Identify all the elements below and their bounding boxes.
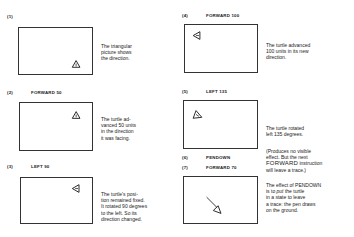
step-number: (1) — [7, 14, 13, 19]
step-number: (4) — [182, 13, 188, 18]
step-number: (7) — [182, 165, 188, 170]
step-2-label: (2) FORWARD 50 — [7, 90, 13, 95]
turtle-trace-drawing — [184, 177, 257, 223]
step-7-screen — [183, 176, 258, 224]
step-4-label: (4) FORWARD 100 — [182, 13, 188, 18]
step-3-label: (3) LEFT 90 — [7, 164, 13, 169]
step-3-description: The turtle's posi- tion remained fixed. … — [101, 191, 147, 222]
emphasis-put: put — [277, 188, 284, 194]
turtle-icon — [213, 206, 221, 214]
turtle-icon — [20, 103, 92, 150]
step-5-screen — [183, 100, 258, 149]
step-2-screen — [19, 102, 93, 151]
step-number: (2) — [7, 90, 13, 95]
desc-line: on the ground. — [266, 207, 321, 213]
step-number: (6) — [182, 155, 188, 160]
step-1-label: (1) — [7, 14, 13, 19]
turtle-icon — [184, 101, 257, 148]
step-5-description: The turtle rotated left 135 degrees. — [266, 125, 304, 137]
step-command: PENDOWN — [206, 155, 230, 160]
desc-text: is to — [266, 188, 277, 194]
turtle-icon — [21, 178, 92, 223]
forward-keyword: FORWARD — [266, 160, 298, 166]
pen-trace-line — [207, 197, 218, 208]
desc-line-rest: instruction — [298, 160, 322, 166]
step-command: FORWARD 50 — [31, 90, 62, 95]
step-command: FORWARD 100 — [206, 13, 239, 18]
step-6-label: (6) PENDOWN — [182, 155, 188, 160]
step-command: LEFT 135 — [206, 89, 227, 94]
step-3-screen — [20, 177, 93, 224]
step-2-description: The turtle ad- vanced 50 units in the di… — [101, 116, 136, 141]
step-4-description: The turtle advanced 100 units in its new… — [266, 42, 310, 61]
step-number: (3) — [7, 164, 13, 169]
desc-line: FORWARD instruction — [266, 160, 322, 166]
step-4-screen — [184, 24, 258, 73]
step-command: FORWARD 70 — [206, 165, 237, 170]
desc-line: a trace: the pen draws — [266, 201, 321, 207]
turtle-icon — [185, 25, 257, 72]
step-7-label: (7) FORWARD 70 — [182, 165, 188, 170]
step-6-description: (Produces no visible effect. But the nex… — [266, 148, 322, 173]
desc-line: will leave a trace.) — [266, 167, 322, 173]
step-7-description: The effect of PENDOWN is to put the turt… — [266, 182, 321, 213]
desc-text: the turtle — [284, 188, 305, 194]
step-command: LEFT 90 — [31, 164, 49, 169]
step-number: (5) — [182, 89, 188, 94]
step-1-description: The triangular picture shows the directi… — [101, 43, 132, 62]
step-1-screen — [18, 27, 93, 75]
turtle-icon — [19, 28, 92, 74]
step-5-label: (5) LEFT 135 — [182, 89, 188, 94]
